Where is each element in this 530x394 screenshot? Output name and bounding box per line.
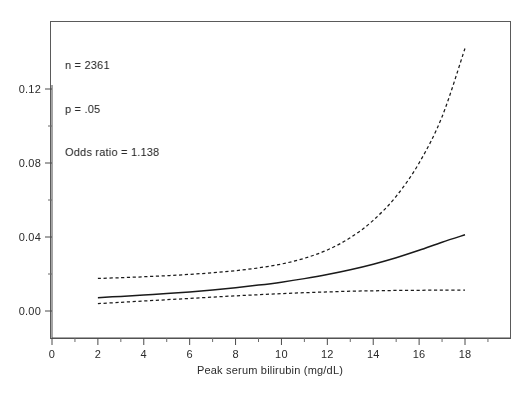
y-axis-tick-label: 0.04 (19, 231, 41, 243)
x-axis-tick-label: 16 (413, 348, 426, 360)
data-curves (98, 48, 465, 303)
figure-panel: n = 2361 p = .05 Odds ratio = 1.138 0.00… (0, 0, 530, 394)
x-axis-tick-label: 2 (95, 348, 101, 360)
axes (52, 85, 510, 338)
y-axis-tick-label: 0.12 (19, 83, 41, 95)
x-axis-tick-label: 0 (49, 348, 55, 360)
y-axis-tick-label: 0.08 (19, 157, 41, 169)
x-axis-tick-label: 18 (459, 348, 472, 360)
x-axis-tick-labels: 024681012141618 (49, 348, 471, 360)
upper-confidence-curve (98, 48, 465, 278)
x-axis-tick-label: 4 (141, 348, 147, 360)
y-axis-tick-labels: 0.000.040.080.12 (19, 83, 41, 317)
x-axis-tick-label: 14 (367, 348, 380, 360)
x-axis-tick-label: 8 (232, 348, 238, 360)
x-axis-title: Peak serum bilirubin (mg/dL) (197, 364, 343, 376)
x-axis-ticks (52, 338, 488, 345)
x-axis-tick-label: 10 (275, 348, 288, 360)
y-axis-tick-label: 0.00 (19, 305, 41, 317)
lower-confidence-curve (98, 290, 465, 304)
chart-svg: 0.000.040.080.12 024681012141618 Peak se… (0, 0, 530, 394)
x-axis-tick-label: 6 (187, 348, 193, 360)
y-axis-ticks (45, 89, 52, 311)
fitted-probability-curve (98, 235, 465, 298)
x-axis-tick-label: 12 (321, 348, 334, 360)
